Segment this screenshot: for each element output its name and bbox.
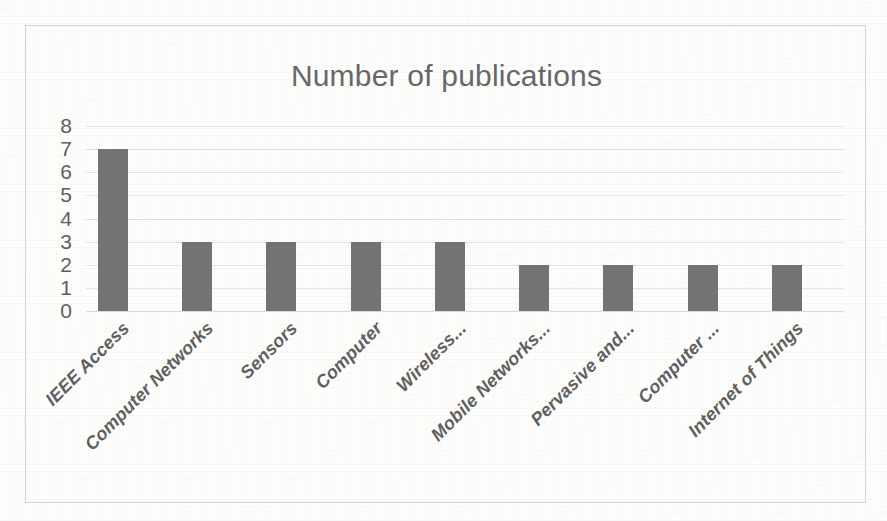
bar[interactable] bbox=[772, 265, 802, 311]
y-axis-tick-5: 5 bbox=[46, 184, 72, 205]
y-axis-tick-0: 0 bbox=[46, 300, 72, 321]
gridline-7 bbox=[86, 149, 844, 150]
x-axis-label: Wireless... bbox=[392, 318, 470, 396]
bar[interactable] bbox=[351, 242, 381, 311]
y-axis-tick-3: 3 bbox=[46, 231, 72, 252]
bar[interactable] bbox=[519, 265, 549, 311]
bar[interactable] bbox=[603, 265, 633, 311]
x-axis-label: Computer ... bbox=[633, 318, 722, 407]
gridline-4 bbox=[86, 219, 844, 220]
y-axis-tick-8: 8 bbox=[46, 115, 72, 136]
x-axis-label: Sensors bbox=[237, 318, 302, 383]
y-axis-tick-4: 4 bbox=[46, 208, 72, 229]
gridline-5 bbox=[86, 195, 844, 196]
x-axis-label: IEEE Access bbox=[42, 318, 134, 410]
bar[interactable] bbox=[688, 265, 718, 311]
gridline-6 bbox=[86, 172, 844, 173]
y-axis-tick-1: 1 bbox=[46, 277, 72, 298]
scanned-page-background: Number of publications 876543210 IEEE Ac… bbox=[0, 0, 887, 521]
bar[interactable] bbox=[182, 242, 212, 311]
plot-area: 876543210 bbox=[86, 126, 844, 311]
y-axis-tick-7: 7 bbox=[46, 138, 72, 159]
x-axis-label: Computer bbox=[311, 318, 386, 393]
chart-title: Number of publications bbox=[26, 59, 867, 93]
chart-frame: Number of publications 876543210 IEEE Ac… bbox=[25, 25, 866, 503]
bar[interactable] bbox=[266, 242, 296, 311]
x-axis-labels: IEEE AccessComputer NetworksSensorsCompu… bbox=[86, 318, 844, 498]
y-axis-tick-2: 2 bbox=[46, 254, 72, 275]
bar[interactable] bbox=[98, 149, 128, 311]
gridline-0 bbox=[86, 311, 844, 312]
y-axis-tick-6: 6 bbox=[46, 161, 72, 182]
bar[interactable] bbox=[435, 242, 465, 311]
gridline-8 bbox=[86, 126, 844, 127]
